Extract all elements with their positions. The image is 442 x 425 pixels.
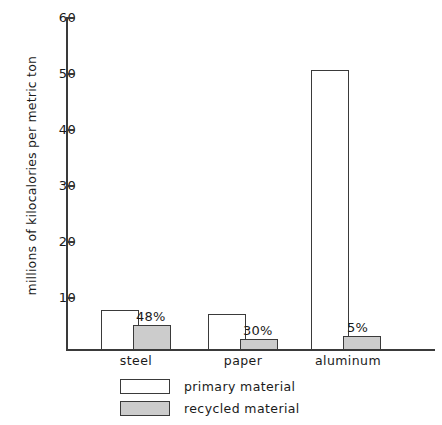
chart-legend: primary material recycled material [120, 377, 380, 421]
x-category-label-steel: steel [96, 354, 176, 368]
bar-chart: millions of kilocalories per metric ton … [0, 0, 442, 425]
legend-item-primary: primary material [120, 377, 380, 399]
y-tick-mark-40 [68, 129, 75, 131]
y-tick-mark-20 [68, 241, 75, 243]
x-category-label-aluminum: aluminum [302, 354, 394, 368]
x-category-label-paper: paper [203, 354, 283, 368]
bar-paper-recycled [240, 339, 278, 350]
legend-label-primary: primary material [184, 379, 295, 394]
legend-swatch-recycled-icon [120, 401, 170, 416]
y-tick-mark-50 [68, 73, 75, 75]
bar-label-paper-pct: 30% [243, 324, 273, 337]
y-tick-mark-30 [68, 185, 75, 187]
bar-label-steel-pct: 48% [136, 310, 166, 323]
legend-label-recycled: recycled material [184, 401, 300, 416]
legend-swatch-primary-icon [120, 379, 170, 394]
y-tick-mark-60 [68, 17, 75, 19]
bar-aluminum-primary [311, 70, 349, 350]
legend-item-recycled: recycled material [120, 399, 380, 421]
bar-label-aluminum-pct: 5% [347, 321, 368, 334]
y-axis-line [66, 17, 68, 351]
bar-aluminum-recycled [343, 336, 381, 350]
y-tick-mark-10 [68, 297, 75, 299]
bar-steel-recycled [133, 325, 171, 350]
